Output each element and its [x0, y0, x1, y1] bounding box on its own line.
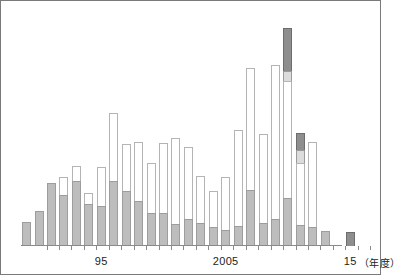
- bar-segment-series-middle: [196, 176, 205, 223]
- bar-2011: [296, 133, 305, 246]
- bar-2006: [234, 130, 243, 246]
- bar-segment-series-bottom: [246, 190, 255, 246]
- bar-segment-series-middle: [259, 134, 268, 223]
- x-axis-unit-label: （年度）: [359, 255, 398, 270]
- x-axis-label-95: 95: [95, 255, 108, 267]
- bar-segment-series-bottom: [259, 223, 268, 246]
- bar-2013: [321, 231, 330, 246]
- bar-segment-series-middle: [122, 144, 131, 191]
- bar-2004: [209, 191, 218, 246]
- bar-segment-series-bottom: [84, 204, 93, 246]
- bar-2008: [259, 134, 268, 246]
- bar-2009: [271, 65, 280, 246]
- bar-segment-series-bottom: [109, 181, 118, 246]
- bar-segment-series-bottom: [171, 224, 180, 246]
- bar-1999: [147, 163, 156, 246]
- bar-2012: [308, 142, 317, 246]
- x-axis-label-2005: 2005: [213, 255, 239, 267]
- bar-2015: [346, 232, 355, 246]
- bar-1994: [84, 193, 93, 246]
- bar-segment-series-top: [283, 28, 292, 71]
- bar-segment-series-bottom: [22, 222, 31, 246]
- x-axis-labels: 95200515（年度）: [1, 247, 380, 275]
- bar-1997: [122, 144, 131, 246]
- bar-2005: [221, 177, 230, 246]
- bar-1991: [47, 183, 56, 246]
- bar-segment-series-bottom: [147, 213, 156, 246]
- bar-1998: [134, 142, 143, 246]
- bar-segment-series-bottom: [184, 219, 193, 246]
- bar-segment-series-middle: [84, 193, 93, 204]
- bar-segment-series-bottom: [122, 191, 131, 246]
- bar-segment-series-middle: [221, 177, 230, 230]
- bar-segment-series-middle: [271, 65, 280, 219]
- bar-2000: [159, 143, 168, 246]
- bar-1996: [109, 113, 118, 246]
- bar-segment-series-bottom: [271, 219, 280, 246]
- bar-2003: [196, 176, 205, 246]
- bar-segment-series-middle: [134, 142, 143, 201]
- bar-1989: [22, 222, 31, 246]
- bar-2001: [171, 138, 180, 246]
- bar-segment-series-bottom: [159, 213, 168, 246]
- bar-segment-series-middle: [159, 143, 168, 213]
- bar-segment-series-light: [283, 71, 292, 81]
- bar-segment-series-bottom: [35, 211, 44, 246]
- bar-2007: [246, 68, 255, 246]
- bar-segment-series-bottom: [72, 181, 81, 246]
- bar-segment-series-middle: [283, 81, 292, 198]
- bar-segment-series-bottom: [134, 201, 143, 246]
- x-axis-label-15: 15: [344, 255, 357, 267]
- bar-segment-series-middle: [184, 147, 193, 219]
- bar-1993: [72, 166, 81, 246]
- bar-segment-series-bottom: [59, 195, 68, 246]
- bar-2002: [184, 147, 193, 246]
- bar-segment-series-bottom: [321, 231, 330, 246]
- bar-segment-series-middle: [59, 177, 68, 195]
- bar-segment-series-bottom: [196, 223, 205, 246]
- bar-segment-series-bottom: [97, 206, 106, 246]
- bar-segment-series-middle: [246, 68, 255, 190]
- bar-segment-series-middle: [147, 163, 156, 213]
- bar-1995: [97, 167, 106, 246]
- bar-segment-series-bottom: [296, 225, 305, 246]
- x-axis-line: [21, 245, 342, 246]
- bar-segment-series-middle: [308, 142, 317, 227]
- bar-segment-series-bottom: [283, 198, 292, 246]
- bar-segment-series-bottom: [209, 227, 218, 246]
- bar-segment-series-bottom: [234, 226, 243, 246]
- bar-segment-series-middle: [109, 113, 118, 181]
- bar-segment-series-middle: [209, 191, 218, 227]
- plot-area: [1, 1, 380, 246]
- bar-1990: [35, 211, 44, 246]
- bar-2010: [283, 28, 292, 246]
- bar-segment-series-top: [296, 133, 305, 150]
- bar-segment-series-middle: [72, 166, 81, 181]
- bar-segment-series-middle: [296, 163, 305, 225]
- bar-segment-series-middle: [97, 167, 106, 206]
- bar-segment-series-top: [346, 232, 355, 246]
- bar-segment-series-middle: [234, 130, 243, 226]
- bar-segment-series-bottom: [308, 227, 317, 246]
- bar-segment-series-light: [296, 150, 305, 163]
- bar-1992: [59, 177, 68, 246]
- bar-segment-series-bottom: [47, 183, 56, 246]
- bar-segment-series-bottom: [221, 230, 230, 246]
- bar-segment-series-middle: [171, 138, 180, 224]
